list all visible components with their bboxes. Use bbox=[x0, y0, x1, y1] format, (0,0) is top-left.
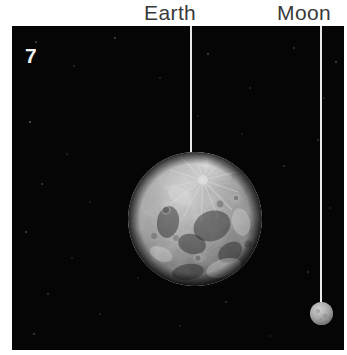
moon-surface-graphic bbox=[310, 302, 333, 325]
leader-line-moon bbox=[320, 26, 322, 306]
space-scene-panel: 7 bbox=[12, 26, 344, 350]
leader-line-earth bbox=[190, 26, 192, 157]
earth-sphere bbox=[128, 152, 262, 286]
earth-surface-graphic bbox=[128, 152, 262, 286]
label-earth: Earth bbox=[144, 0, 196, 25]
panel-number-badge: 7 bbox=[25, 45, 37, 66]
label-moon: Moon bbox=[277, 0, 331, 25]
moon-sphere bbox=[310, 302, 333, 325]
astronomy-figure-panel: Earth Moon 7 bbox=[0, 0, 347, 355]
